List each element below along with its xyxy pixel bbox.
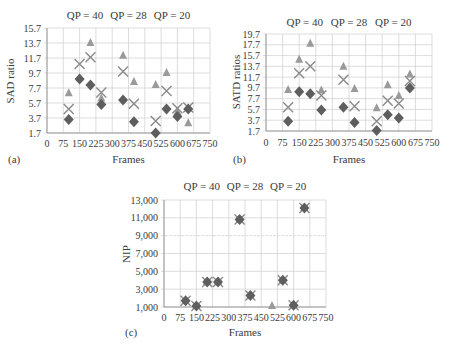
diamond-marker [383, 109, 393, 120]
triangle-marker [130, 77, 138, 85]
x-tick-label: 525 [270, 312, 285, 323]
y-tick-label: 11,000 [131, 212, 158, 223]
diamond-marker [316, 104, 326, 115]
y-tick-label: 3.7 [29, 113, 42, 124]
x-tick-label: 300 [221, 312, 236, 323]
y-tick-label: 13.7 [243, 61, 261, 72]
diamond-marker [372, 125, 382, 136]
y-tick-label: 3,000 [136, 284, 159, 295]
y-tick-label: 19.7 [243, 29, 261, 40]
y-tick-label: 9,000 [136, 230, 159, 241]
y-tick-label: 5,000 [136, 266, 159, 277]
x-tick-label: 675 [186, 138, 201, 149]
cross-marker [162, 86, 172, 96]
x-tick-label: 675 [302, 312, 317, 323]
scatter-chart-nip: 0751502253003754505256006757501,0003,000… [100, 180, 350, 354]
y-tick-label: 15.7 [243, 50, 261, 61]
x-tick-label: 225 [88, 138, 103, 149]
y-tick-label: 5.7 [248, 104, 261, 115]
diamond-marker [118, 95, 128, 106]
scatter-chart-satd: 0751502253003754505256006757501.73.75.77… [225, 0, 451, 180]
triangle-marker [306, 39, 314, 47]
x-tick-label: 525 [154, 138, 169, 149]
diamond-marker [64, 114, 74, 125]
x-tick-label: 150 [292, 137, 307, 148]
triangle-marker [86, 38, 94, 46]
cross-marker [338, 75, 348, 85]
y-tick-label: 7.7 [29, 83, 42, 94]
x-tick-label: 600 [170, 138, 185, 149]
qp-annotation: QP = 40 [287, 16, 324, 28]
panel-label: (c) [125, 326, 138, 339]
cross-marker [151, 116, 161, 126]
diamond-marker [283, 116, 293, 127]
y-tick-label: 9.7 [248, 82, 261, 93]
diamond-marker [338, 102, 348, 113]
y-tick-label: 7.7 [248, 93, 261, 104]
y-tick-label: 1.7 [29, 128, 42, 139]
y-tick-label: 11.7 [24, 53, 41, 64]
x-axis-label: Frames [333, 153, 365, 165]
triangle-marker [395, 91, 403, 99]
diamond-marker [75, 74, 85, 85]
chart-panel-c: 0751502253003754505256006757501,0003,000… [100, 180, 350, 354]
x-tick-label: 300 [105, 138, 120, 149]
qp-annotation: QP = 40 [184, 180, 221, 192]
triangle-marker [152, 80, 160, 88]
y-tick-label: 17.7 [243, 39, 261, 50]
cross-marker [283, 102, 293, 112]
cross-marker [118, 67, 128, 77]
y-tick-label: 11.7 [243, 72, 260, 83]
x-tick-label: 0 [264, 137, 269, 148]
x-tick-label: 600 [391, 137, 406, 148]
chart-panel-a: 0751502253003754505256006757501.73.75.77… [0, 0, 225, 180]
x-tick-label: 150 [189, 312, 204, 323]
x-axis-label: Frames [112, 153, 144, 165]
x-tick-label: 450 [358, 137, 373, 148]
x-tick-label: 300 [325, 137, 340, 148]
x-tick-label: 375 [121, 138, 136, 149]
triangle-marker [373, 103, 381, 111]
chart-panel-b: 0751502253003754505256006757501.73.75.77… [225, 0, 451, 180]
triangle-marker [384, 80, 392, 88]
x-tick-label: 375 [238, 312, 253, 323]
diamond-marker [305, 88, 315, 99]
x-tick-label: 525 [375, 137, 390, 148]
y-tick-label: 13,000 [131, 195, 159, 206]
cross-marker [383, 96, 393, 106]
triangle-marker [406, 69, 414, 77]
x-tick-label: 0 [45, 138, 50, 149]
qp-annotation: QP = 28 [227, 180, 264, 192]
diamond-marker [85, 80, 95, 91]
y-tick-label: 15.7 [24, 23, 42, 34]
x-tick-label: 675 [408, 137, 423, 148]
y-tick-label: 3.7 [248, 115, 261, 126]
cross-marker [372, 116, 382, 126]
x-tick-label: 75 [175, 312, 185, 323]
x-tick-label: 225 [308, 137, 323, 148]
panel-label: (b) [233, 153, 246, 166]
x-tick-label: 750 [425, 137, 440, 148]
x-tick-label: 75 [278, 137, 288, 148]
y-axis-label: SATD ratios [230, 55, 242, 110]
y-tick-label: 9.7 [29, 68, 42, 79]
x-tick-label: 750 [319, 312, 334, 323]
triangle-marker [284, 85, 292, 93]
y-tick-label: 1.7 [248, 126, 261, 137]
diamond-marker [350, 117, 360, 128]
qp-annotation: QP = 28 [110, 9, 147, 21]
x-tick-label: 0 [162, 312, 167, 323]
y-tick-label: 1,000 [136, 302, 159, 313]
triangle-marker [119, 51, 127, 59]
x-tick-label: 600 [286, 312, 301, 323]
triangle-marker [268, 301, 276, 309]
x-tick-label: 75 [58, 138, 68, 149]
cross-marker [64, 104, 74, 114]
diamond-marker [394, 113, 404, 124]
y-axis-label: SAD ratio [4, 58, 16, 103]
x-tick-label: 225 [205, 312, 220, 323]
triangle-marker [295, 55, 303, 63]
qp-annotation: QP = 28 [331, 16, 368, 28]
qp-annotation: QP = 20 [375, 16, 412, 28]
x-tick-label: 150 [72, 138, 87, 149]
